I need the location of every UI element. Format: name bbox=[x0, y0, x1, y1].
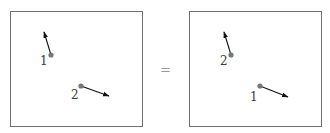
particle-1: 1 bbox=[40, 32, 54, 68]
particle-label: 2 bbox=[71, 88, 79, 102]
particle-point bbox=[228, 52, 233, 57]
velocity-arrow bbox=[224, 32, 231, 55]
velocity-arrow bbox=[44, 32, 51, 55]
particle-point bbox=[78, 83, 83, 88]
exchange-diagram: 1 2 = 2 1 bbox=[0, 0, 330, 133]
particle-label: 1 bbox=[40, 54, 48, 68]
particle-label: 1 bbox=[250, 90, 258, 104]
velocity-arrow bbox=[81, 86, 109, 96]
right-panel: 2 1 bbox=[190, 12, 322, 127]
left-panel-frame bbox=[11, 12, 143, 127]
velocity-arrow bbox=[260, 86, 288, 97]
right-panel-frame bbox=[190, 12, 322, 127]
particle-point bbox=[48, 52, 53, 57]
particle-2: 2 bbox=[71, 83, 109, 102]
particle-label: 2 bbox=[220, 54, 228, 68]
left-panel: 1 2 bbox=[11, 12, 143, 127]
particle-point bbox=[257, 83, 262, 88]
particle-2: 2 bbox=[220, 32, 234, 68]
equals-sign: = bbox=[160, 62, 171, 77]
particle-1: 1 bbox=[250, 83, 288, 104]
